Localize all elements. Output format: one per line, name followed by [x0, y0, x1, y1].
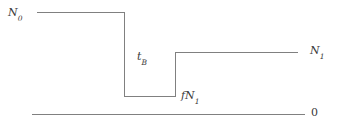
label-fN1-subscript: 1 — [195, 97, 200, 106]
plot-background — [0, 0, 342, 128]
label-N0-base: N — [8, 6, 18, 19]
label-final-population: N1 — [310, 45, 324, 59]
label-bottleneck-duration: tB — [137, 51, 147, 65]
label-N1-subscript: 1 — [320, 52, 325, 61]
figure-canvas: N0 tB fN1 N1 0 — [0, 0, 342, 128]
step-function-plot — [0, 0, 342, 128]
label-N0-subscript: 0 — [18, 14, 23, 23]
label-tB-subscript: B — [141, 58, 147, 67]
label-initial-population: N0 — [8, 7, 22, 21]
label-bottleneck-level: fN1 — [181, 90, 199, 104]
label-fN1-base: N — [185, 89, 195, 102]
label-N1-base: N — [310, 44, 320, 57]
label-zero-line: 0 — [311, 107, 318, 118]
